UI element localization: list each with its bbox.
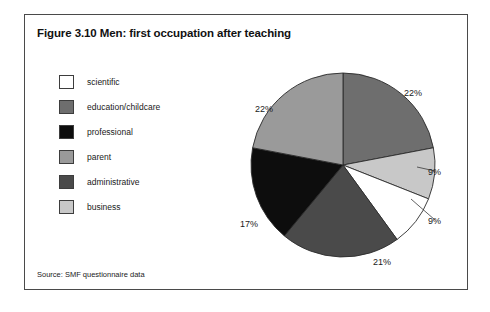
pie-slice-percent-label: 22%	[255, 104, 273, 114]
pie-chart: 22%9%9%21%17%22%	[221, 59, 461, 271]
legend-label-education-childcare: education/childcare	[87, 102, 160, 112]
legend-swatch-education-childcare	[59, 100, 74, 114]
legend-item-scientific: scientific	[59, 69, 219, 94]
legend-swatch-business	[59, 200, 74, 214]
legend-label-business: business	[87, 202, 121, 212]
legend-swatch-parent	[59, 150, 74, 164]
legend-swatch-professional	[59, 125, 74, 139]
source-note: Source: SMF questionnaire data	[37, 270, 145, 279]
legend-label-administrative: administrative	[87, 177, 139, 187]
legend-item-education-childcare: education/childcare	[59, 94, 219, 119]
title-divider	[25, 55, 467, 56]
pie-slice-percent-label: 9%	[428, 216, 441, 226]
legend-label-scientific: scientific	[87, 77, 120, 87]
legend-item-administrative: administrative	[59, 169, 219, 194]
legend-label-parent: parent	[87, 152, 111, 162]
pie-chart-svg	[221, 59, 461, 271]
pie-slice-percent-label: 22%	[404, 88, 422, 98]
pie-slice-percent-label: 21%	[373, 257, 391, 267]
figure-title: Figure 3.10 Men: first occupation after …	[37, 27, 291, 39]
chart-legend: scientific education/childcare professio…	[59, 69, 219, 219]
pie-slice-percent-label: 9%	[428, 167, 441, 177]
legend-swatch-scientific	[59, 75, 74, 89]
legend-item-business: business	[59, 194, 219, 219]
legend-swatch-administrative	[59, 175, 74, 189]
pie-slice-percent-label: 17%	[240, 219, 258, 229]
legend-label-professional: professional	[87, 127, 133, 137]
legend-item-parent: parent	[59, 144, 219, 169]
legend-item-professional: professional	[59, 119, 219, 144]
figure-panel: Figure 3.10 Men: first occupation after …	[24, 14, 468, 290]
